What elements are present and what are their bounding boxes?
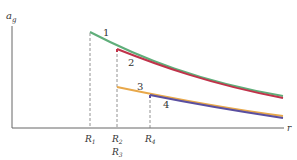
tick-r2: R2	[111, 134, 123, 145]
curve-4-label: 4	[163, 99, 169, 110]
tick-r1: R1	[84, 134, 96, 145]
curve-3-label: 3	[137, 81, 143, 92]
x-axis-label: r	[287, 123, 292, 133]
curve-2-label: 2	[128, 57, 134, 68]
tick-r4: R4	[144, 134, 156, 145]
curve-4	[150, 95, 283, 118]
curve-1-label: 1	[103, 27, 109, 38]
gravitational-acceleration-diagram: ag r 1 2 3 4 R1 R2 R3 R4	[0, 0, 297, 160]
y-axis-label: ag	[6, 10, 17, 24]
tick-r3: R3	[111, 147, 123, 158]
